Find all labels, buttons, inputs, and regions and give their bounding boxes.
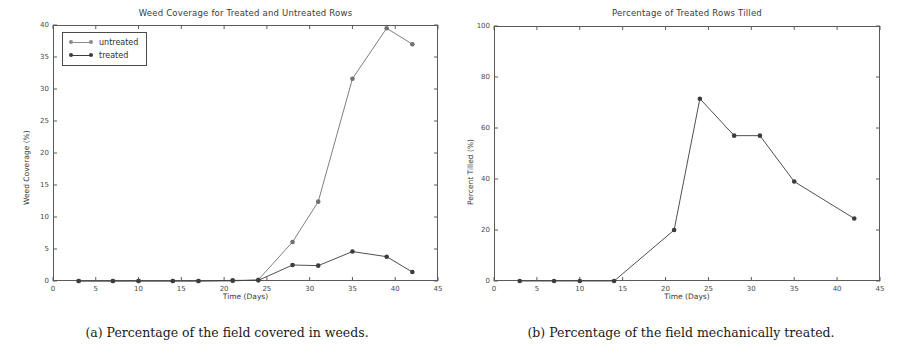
data-point-marker — [290, 240, 295, 245]
data-point-marker — [170, 279, 175, 284]
data-point-marker — [316, 263, 321, 268]
legend-label-treated: treated — [99, 51, 128, 60]
y-tick-label: 5 — [19, 245, 49, 253]
data-point-marker — [758, 133, 763, 138]
legend-label-untreated: untreated — [99, 38, 138, 47]
data-point-marker — [732, 133, 737, 138]
data-point-marker — [136, 279, 141, 284]
legend-item-untreated[interactable]: untreated — [68, 36, 138, 49]
data-point-marker — [196, 279, 201, 284]
data-point-marker — [410, 42, 415, 47]
data-point-marker — [852, 216, 857, 221]
y-axis-title-a: Weed Coverage (%) — [22, 130, 31, 205]
data-point-marker — [612, 279, 617, 284]
y-tick-label: 30 — [19, 85, 49, 93]
plot-a: Weed Coverage for Treated and Untreated … — [0, 0, 454, 318]
data-point-marker — [384, 26, 389, 31]
data-point-marker — [552, 279, 557, 284]
data-point-marker — [384, 254, 389, 259]
x-axis-title-b: Time (Days) — [494, 292, 880, 301]
caption-b: (b) Percentage of the field mechanically… — [454, 325, 908, 340]
legend-marker-treated-icon — [68, 50, 94, 61]
data-point-marker — [350, 76, 355, 81]
data-point-marker — [256, 278, 261, 283]
data-point-marker — [230, 278, 235, 283]
y-tick-label: 25 — [19, 117, 49, 125]
series-layer-b — [454, 0, 908, 318]
subfigure-a: Weed Coverage for Treated and Untreated … — [0, 0, 454, 358]
data-point-marker — [111, 279, 116, 284]
y-tick-label: 10 — [19, 213, 49, 221]
data-point-marker — [698, 96, 703, 101]
figure-container: Weed Coverage for Treated and Untreated … — [0, 0, 908, 358]
legend-marker-untreated-icon — [68, 37, 94, 48]
data-point-marker — [290, 263, 295, 268]
data-point-marker — [792, 179, 797, 184]
series-line — [520, 99, 855, 281]
data-point-marker — [672, 228, 677, 233]
data-point-marker — [350, 249, 355, 254]
caption-a: (a) Percentage of the field covered in w… — [0, 325, 454, 340]
legend-item-treated[interactable]: treated — [68, 49, 138, 62]
y-tick-label: 60 — [460, 124, 490, 132]
data-point-marker — [517, 279, 522, 284]
y-tick-label: 100 — [460, 22, 490, 30]
y-tick-label: 0 — [19, 277, 49, 285]
y-axis-title-b: Percent Tilled (%) — [466, 139, 475, 205]
series-line — [79, 28, 413, 281]
data-point-marker — [316, 199, 321, 204]
data-point-marker — [76, 279, 81, 284]
y-tick-label: 40 — [19, 21, 49, 29]
subfigure-b: Percentage of Treated Rows Tilled 020406… — [454, 0, 908, 358]
series-line — [79, 252, 413, 281]
y-tick-label: 40 — [460, 175, 490, 183]
legend-a[interactable]: untreated treated — [62, 32, 147, 66]
y-tick-label: 80 — [460, 73, 490, 81]
data-point-marker — [577, 279, 582, 284]
x-axis-title-a: Time (Days) — [53, 292, 438, 301]
plot-b: Percentage of Treated Rows Tilled 020406… — [454, 0, 908, 318]
data-point-marker — [410, 270, 415, 275]
y-tick-label: 0 — [460, 277, 490, 285]
y-tick-label: 35 — [19, 53, 49, 61]
y-tick-label: 20 — [460, 226, 490, 234]
